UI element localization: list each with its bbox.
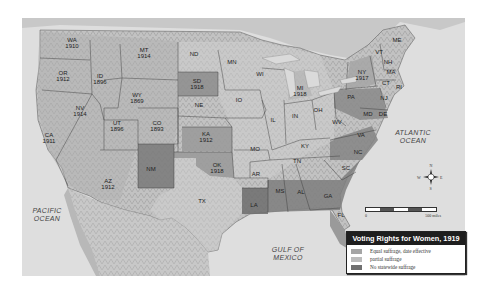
state-abbr: MO — [250, 146, 260, 152]
legend-swatch-partial — [351, 257, 362, 262]
state-label-mo: MO — [250, 146, 260, 152]
scale-bar: 0 500 miles — [365, 207, 435, 215]
state-label-md: MD — [363, 111, 372, 117]
state-abbr: RI — [396, 84, 402, 90]
state-year: 1896 — [93, 79, 106, 85]
state-abbr: DE — [379, 111, 387, 117]
compass-icon — [423, 169, 439, 185]
state-abbr: LA — [250, 202, 257, 208]
state-label-la: LA — [250, 202, 257, 208]
state-label-az: AZ1912 — [101, 178, 114, 190]
state-label-nm: NM — [146, 166, 155, 172]
state-label-il: IL — [270, 117, 275, 123]
state-abbr: NJ — [380, 95, 387, 101]
state-abbr: PA — [347, 94, 355, 100]
state-abbr: KY — [301, 143, 309, 149]
state-year: 1896 — [110, 126, 123, 132]
state-label-id: ID1896 — [93, 73, 106, 85]
state-abbr: FL — [337, 212, 344, 218]
state-label-ut: UT1896 — [110, 120, 123, 132]
state-abbr: GA — [324, 193, 333, 199]
state-abbr: TN — [293, 158, 301, 164]
state-label-tn: TN — [293, 158, 301, 164]
state-label-wi: WI — [256, 71, 263, 77]
state-year: 1912 — [56, 76, 69, 82]
state-label-io: IO — [236, 97, 242, 103]
state-abbr: WI — [256, 71, 263, 77]
state-abbr: IL — [270, 117, 275, 123]
state-label-nv: NV1914 — [73, 105, 86, 117]
state-abbr: MS — [276, 188, 285, 194]
ocean-label-pacific: PACIFIC OCEAN — [32, 207, 61, 223]
scale-start: 0 — [365, 213, 367, 218]
state-label-sc: SC — [342, 165, 350, 171]
state-abbr: IN — [292, 113, 298, 119]
state-year: 1912 — [101, 184, 114, 190]
state-label-nj: NJ — [380, 95, 387, 101]
state-label-ca: CA1911 — [43, 132, 56, 144]
state-label-ka: KA1912 — [199, 131, 212, 143]
state-label-oh: OH — [314, 107, 323, 113]
state-label-ga: GA — [324, 193, 333, 199]
state-abbr: ND — [190, 51, 199, 57]
state-label-nh: NH — [384, 59, 393, 65]
scale-bar-graphic — [365, 207, 437, 212]
ocean-label-gulf: GULF OF MEXICO — [272, 246, 304, 262]
compass-n: N — [430, 163, 433, 168]
state-abbr: AR — [252, 171, 260, 177]
state-abbr: ME — [393, 37, 402, 43]
state-abbr: NH — [384, 59, 393, 65]
state-year: 1869 — [130, 98, 143, 104]
legend-item-partial: partial suffrage — [347, 255, 465, 263]
legend-label-partial: partial suffrage — [370, 256, 401, 262]
state-abbr: TX — [198, 198, 206, 204]
state-label-nc: NC — [354, 149, 363, 155]
state-year: 1912 — [199, 137, 212, 143]
compass-rose: N S W E — [423, 169, 439, 185]
ocean-label-atlantic: ATLANTIC OCEAN — [395, 129, 431, 145]
state-label-wa: WA1910 — [65, 37, 78, 49]
state-label-de: DE — [379, 111, 387, 117]
state-label-ny: NY1917 — [355, 69, 368, 81]
legend-swatch-equal — [351, 249, 362, 254]
state-label-me: ME — [393, 37, 402, 43]
state-abbr: NC — [354, 149, 363, 155]
state-year: 1918 — [293, 91, 306, 97]
state-year: 1910 — [65, 43, 78, 49]
state-abbr: SC — [342, 165, 350, 171]
state-label-ma: MA — [387, 69, 396, 75]
legend-title: Voting Rights for Women, 1919 — [347, 232, 465, 245]
state-label-ky: KY — [301, 143, 309, 149]
state-year: 1917 — [355, 75, 368, 81]
state-label-pa: PA — [347, 94, 355, 100]
state-label-ar: AR — [252, 171, 260, 177]
state-label-mt: MT1914 — [137, 47, 150, 59]
compass-s: S — [430, 186, 432, 191]
state-label-ok: OK1918 — [210, 162, 223, 174]
state-label-in: IN — [292, 113, 298, 119]
state-year: 1893 — [150, 126, 163, 132]
state-abbr: MA — [387, 69, 396, 75]
compass-e: E — [440, 175, 442, 180]
state-label-vt: VT — [375, 49, 383, 55]
state-label-va: VA — [357, 132, 365, 138]
state-label-wy: WY1869 — [130, 92, 143, 104]
state-abbr: NE — [195, 102, 203, 108]
state-label-mi: MI1918 — [293, 85, 306, 97]
legend-label-none: No statewide suffrage — [370, 264, 415, 270]
legend-item-none: No statewide suffrage — [347, 263, 465, 271]
state-year: 1918 — [210, 168, 223, 174]
state-abbr: AL — [297, 189, 304, 195]
compass-w: W — [417, 175, 421, 180]
state-label-ms: MS — [276, 188, 285, 194]
state-year: 1918 — [190, 84, 203, 90]
state-year: 1914 — [73, 111, 86, 117]
map-legend: Voting Rights for Women, 1919 Equal suff… — [346, 231, 466, 274]
state-abbr: CT — [382, 80, 390, 86]
state-abbr: MN — [227, 59, 236, 65]
state-label-nd: ND — [190, 51, 199, 57]
state-year: 1911 — [43, 138, 56, 144]
state-label-al: AL — [297, 189, 304, 195]
state-label-wv: WV — [332, 119, 342, 125]
state-label-fl: FL — [337, 212, 344, 218]
